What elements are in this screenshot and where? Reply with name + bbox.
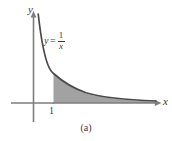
figure-caption: (a) <box>0 122 172 133</box>
equation-equals-sign: = <box>50 36 56 46</box>
figure-container: y x 1 y = 1 x (a) <box>0 0 172 141</box>
curve-equation-label: y = 1 x <box>44 31 65 51</box>
shaded-area-region <box>54 74 156 104</box>
y-axis-label: y <box>28 4 33 15</box>
fraction-numerator: 1 <box>58 31 65 41</box>
graph-plot <box>0 0 172 141</box>
fraction-denominator: x <box>58 42 64 52</box>
equation-lhs: y <box>44 36 48 46</box>
x-tick-label-one: 1 <box>49 106 54 116</box>
equation-fraction: 1 x <box>58 31 65 51</box>
x-axis-label: x <box>163 96 168 107</box>
